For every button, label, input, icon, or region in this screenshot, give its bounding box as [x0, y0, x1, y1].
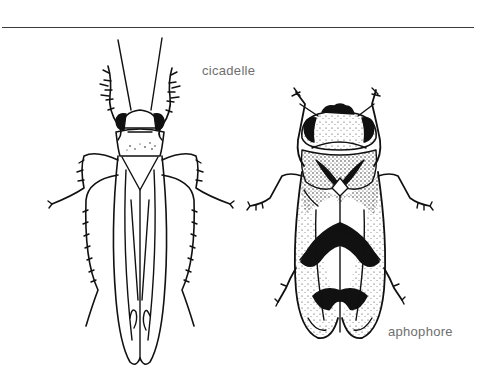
label-aphophore: aphophore	[388, 324, 453, 339]
antenna-right	[151, 38, 162, 110]
antenna-left	[118, 40, 131, 110]
label-cicadelle: cicadelle	[202, 63, 255, 78]
cicadelle-drawing	[48, 38, 234, 364]
aphophore-drawing	[247, 88, 433, 338]
